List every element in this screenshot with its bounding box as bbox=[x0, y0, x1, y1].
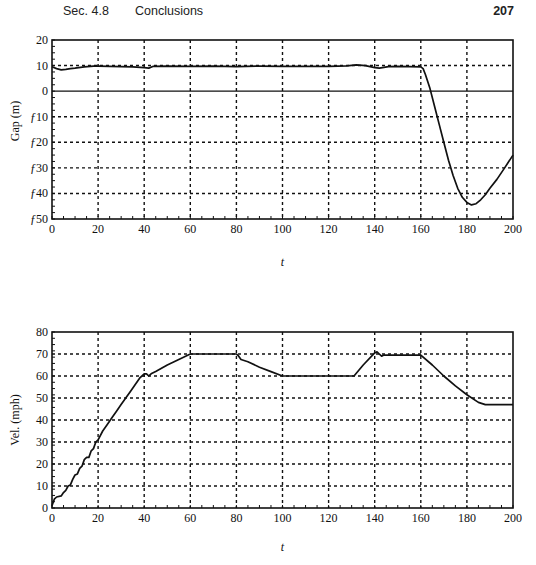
gap-series-line bbox=[52, 65, 513, 205]
y-tick-label: 50 bbox=[36, 391, 48, 405]
gap-plot: 02040608010012014016018020020100ƒ10ƒ20ƒ3… bbox=[8, 33, 522, 269]
y-tick-label: 70 bbox=[36, 347, 48, 361]
y-tick-label: 30 bbox=[36, 435, 48, 449]
y-tick-label: ƒ30 bbox=[30, 161, 48, 175]
x-tick-label: 40 bbox=[138, 222, 150, 236]
x-axis-label: t bbox=[281, 255, 285, 269]
x-tick-label: 200 bbox=[504, 222, 522, 236]
figure-caption-truncated bbox=[40, 559, 500, 565]
x-tick-label: 180 bbox=[458, 511, 476, 525]
y-axis-label: Gap (m) bbox=[8, 101, 22, 141]
x-tick-label: 140 bbox=[366, 222, 384, 236]
x-tick-label: 80 bbox=[230, 222, 242, 236]
x-tick-label: 40 bbox=[138, 511, 150, 525]
y-axis-label: Vel. (mph) bbox=[8, 394, 22, 445]
y-tick-label: 60 bbox=[36, 369, 48, 383]
y-tick-label: ƒ20 bbox=[30, 135, 48, 149]
x-tick-label: 20 bbox=[92, 511, 104, 525]
y-tick-label: 20 bbox=[36, 33, 48, 47]
x-tick-label: 100 bbox=[274, 511, 292, 525]
x-tick-label: 60 bbox=[184, 511, 196, 525]
x-tick-label: 180 bbox=[458, 222, 476, 236]
x-tick-label: 60 bbox=[184, 222, 196, 236]
x-tick-label: 20 bbox=[92, 222, 104, 236]
x-tick-label: 120 bbox=[320, 511, 338, 525]
x-tick-label: 0 bbox=[49, 222, 55, 236]
y-tick-label: ƒ40 bbox=[30, 186, 48, 200]
x-tick-label: 120 bbox=[320, 222, 338, 236]
x-tick-label: 80 bbox=[230, 511, 242, 525]
y-tick-label: 40 bbox=[36, 413, 48, 427]
x-tick-label: 140 bbox=[366, 511, 384, 525]
figure-charts: 02040608010012014016018020020100ƒ10ƒ20ƒ3… bbox=[0, 0, 536, 565]
x-tick-label: 0 bbox=[49, 511, 55, 525]
y-tick-label: 20 bbox=[36, 457, 48, 471]
x-tick-label: 160 bbox=[412, 222, 430, 236]
y-tick-label: ƒ10 bbox=[30, 110, 48, 124]
y-tick-label: 0 bbox=[42, 84, 48, 98]
velocity-plot: 0204060801001201401601802008070605040302… bbox=[8, 325, 522, 554]
y-tick-label: 10 bbox=[36, 59, 48, 73]
y-tick-label: ƒ50 bbox=[30, 212, 48, 226]
y-tick-label: 10 bbox=[36, 479, 48, 493]
y-tick-label: 80 bbox=[36, 325, 48, 339]
x-tick-label: 200 bbox=[504, 511, 522, 525]
y-tick-label: 0 bbox=[42, 501, 48, 515]
x-tick-label: 160 bbox=[412, 511, 430, 525]
x-axis-label: t bbox=[281, 540, 285, 554]
x-tick-label: 100 bbox=[274, 222, 292, 236]
